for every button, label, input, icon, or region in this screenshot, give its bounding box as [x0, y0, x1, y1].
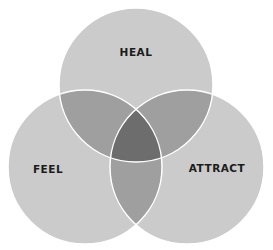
venn-svg: HEAL FEEL ATTRACT: [0, 0, 273, 250]
label-attract: ATTRACT: [189, 162, 246, 174]
label-heal: HEAL: [120, 46, 153, 58]
label-feel: FEEL: [33, 163, 63, 175]
venn-diagram: HEAL FEEL ATTRACT: [0, 0, 273, 250]
